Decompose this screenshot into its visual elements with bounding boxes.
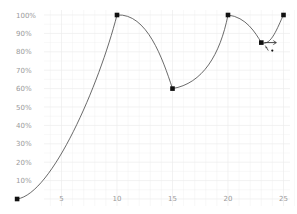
y-tick-label: 60% bbox=[16, 85, 32, 93]
x-tick-label: 25 bbox=[279, 195, 288, 203]
x-tick-label: 5 bbox=[59, 195, 63, 203]
control-point[interactable] bbox=[259, 40, 264, 45]
y-tick-label: 50% bbox=[16, 104, 32, 112]
control-point[interactable] bbox=[226, 13, 231, 18]
x-tick-label: 10 bbox=[113, 195, 122, 203]
control-point[interactable] bbox=[281, 13, 286, 18]
control-point[interactable] bbox=[170, 86, 175, 91]
grid bbox=[44, 10, 295, 206]
y-tick-label: 40% bbox=[16, 122, 32, 130]
y-tick-label: 70% bbox=[16, 67, 32, 75]
y-tick-label: 80% bbox=[16, 48, 32, 56]
y-axis-labels: 10%20%30%40%50%60%70%80%90%100% bbox=[16, 12, 36, 186]
move-cursor-icon bbox=[264, 41, 276, 52]
y-tick-label: 10% bbox=[16, 177, 32, 185]
y-tick-label: 20% bbox=[16, 159, 32, 167]
y-tick-label: 90% bbox=[16, 30, 32, 38]
y-tick-label: 30% bbox=[16, 140, 32, 148]
x-tick-label: 15 bbox=[168, 195, 177, 203]
control-point[interactable] bbox=[115, 13, 120, 18]
line-chart: 10%20%30%40%50%60%70%80%90%100% 51015202… bbox=[0, 0, 297, 214]
x-tick-label: 20 bbox=[224, 195, 233, 203]
control-point[interactable] bbox=[15, 197, 20, 202]
y-tick-label: 100% bbox=[16, 12, 36, 20]
